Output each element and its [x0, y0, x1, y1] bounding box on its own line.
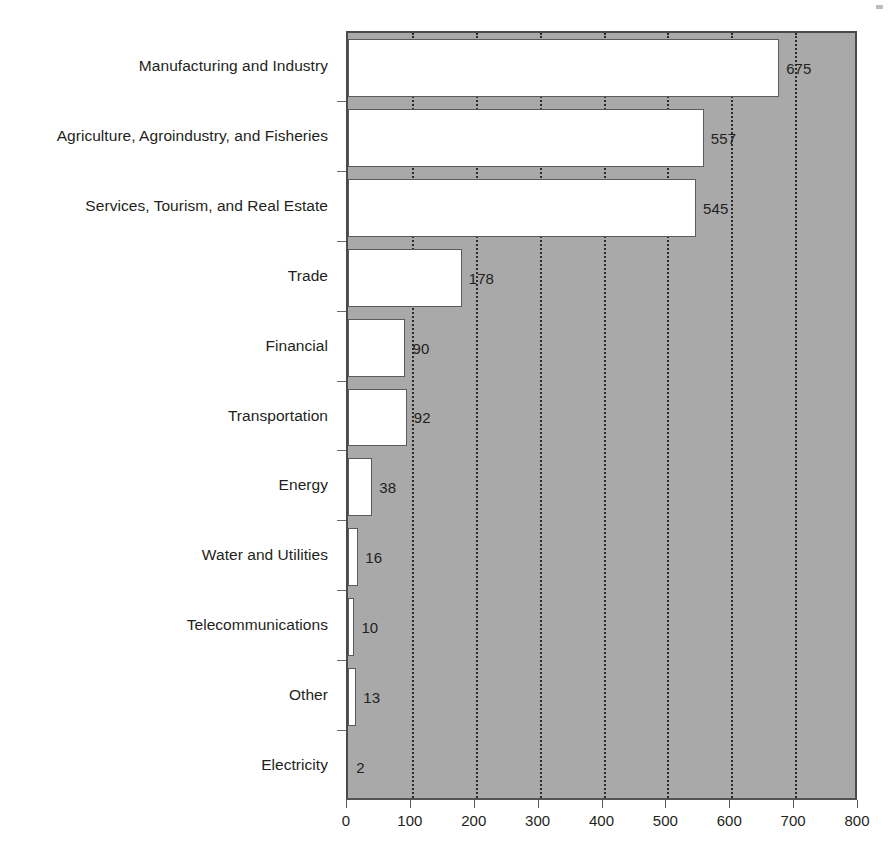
value-tick-500	[665, 800, 666, 808]
bar-value-label: 10	[361, 619, 378, 636]
value-tick-label: 800	[844, 812, 869, 829]
bar-value-label: 675	[786, 59, 811, 76]
bar-value-label: 545	[703, 199, 728, 216]
category-label: Telecommunications	[187, 616, 328, 634]
value-tick-label: 700	[781, 812, 806, 829]
category-tick	[337, 450, 346, 451]
value-tick-100	[410, 800, 411, 808]
category-label: Services, Tourism, and Real Estate	[85, 197, 328, 215]
bar	[348, 319, 405, 377]
bar-row: 557	[348, 103, 855, 173]
bar-row: 675	[348, 33, 855, 103]
bar-row: 2	[348, 732, 855, 802]
category-label: Energy	[279, 476, 328, 494]
value-tick-400	[602, 800, 603, 808]
bar-row: 38	[348, 452, 855, 522]
category-label: Other	[289, 686, 328, 704]
value-tick-200	[474, 800, 475, 808]
category-tick	[337, 311, 346, 312]
bar-value-label: 92	[414, 409, 431, 426]
category-tick	[337, 171, 346, 172]
value-tick-800	[857, 800, 858, 808]
category-label: Manufacturing and Industry	[139, 57, 328, 75]
category-axis-labels: Manufacturing and IndustryAgriculture, A…	[0, 31, 338, 800]
bar-row: 92	[348, 383, 855, 453]
bar	[348, 39, 779, 97]
bar	[348, 109, 704, 167]
category-tick	[337, 660, 346, 661]
scan-artifact	[876, 5, 883, 9]
category-label: Water and Utilities	[202, 546, 328, 564]
category-tick	[337, 590, 346, 591]
bar	[348, 668, 356, 726]
value-tick-label: 400	[589, 812, 614, 829]
bar	[348, 179, 696, 237]
bar	[348, 458, 372, 516]
bar-value-label: 38	[379, 479, 396, 496]
value-tick-300	[538, 800, 539, 808]
bar-value-label: 557	[711, 129, 736, 146]
category-label: Trade	[288, 267, 328, 285]
bar-rows: 6755575451789092381610132	[348, 33, 855, 798]
bar-value-label: 13	[363, 689, 380, 706]
value-tick-label: 300	[525, 812, 550, 829]
bar	[348, 528, 358, 586]
category-label: Agriculture, Agroindustry, and Fisheries	[57, 127, 328, 145]
value-tick-label: 600	[717, 812, 742, 829]
bar	[348, 598, 354, 656]
category-label: Financial	[266, 337, 328, 355]
value-tick-label: 200	[461, 812, 486, 829]
value-tick-label: 100	[397, 812, 422, 829]
category-tick	[337, 241, 346, 242]
bar-row: 16	[348, 522, 855, 592]
value-tick-700	[793, 800, 794, 808]
value-tick-label: 500	[653, 812, 678, 829]
category-label: Transportation	[228, 407, 328, 425]
bar-chart: 6755575451789092381610132 Manufacturing …	[0, 0, 893, 867]
bar-row: 13	[348, 662, 855, 732]
category-tick	[337, 520, 346, 521]
bar-row: 178	[348, 243, 855, 313]
value-tick-0	[346, 800, 347, 808]
bar-row: 10	[348, 592, 855, 662]
bar-row: 90	[348, 313, 855, 383]
plot-area: 6755575451789092381610132	[346, 31, 857, 800]
category-tick	[337, 101, 346, 102]
bar-value-label: 16	[365, 549, 382, 566]
category-label: Electricity	[261, 756, 328, 774]
category-tick	[337, 730, 346, 731]
bar-value-label: 2	[356, 759, 364, 776]
category-tick	[337, 381, 346, 382]
value-tick-600	[729, 800, 730, 808]
bar-row: 545	[348, 173, 855, 243]
bar-value-label: 178	[469, 269, 494, 286]
bar	[348, 389, 407, 447]
bar-value-label: 90	[412, 339, 429, 356]
bar	[348, 249, 462, 307]
value-tick-label: 0	[342, 812, 350, 829]
